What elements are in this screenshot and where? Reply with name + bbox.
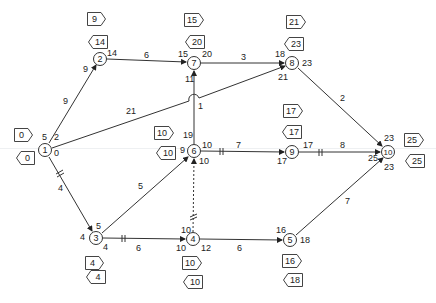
- node6-es-tag: 10: [154, 126, 174, 140]
- node3-label-in: 5: [96, 222, 101, 231]
- edge-weight-1-8: 21: [126, 107, 136, 116]
- node-1: 1: [38, 143, 52, 157]
- node10-label-bottom: 23: [384, 163, 394, 172]
- node-8: 8: [285, 56, 299, 70]
- edge-weight-9-10: 8: [340, 141, 345, 150]
- node5-es-tag: 16: [282, 254, 302, 268]
- node4-label-in: 10: [176, 244, 186, 253]
- node5-label-out: 18: [300, 236, 310, 245]
- edge-weight-3-4: 6: [136, 244, 141, 253]
- node8-lf-tag: 23: [284, 37, 304, 51]
- edge-4-5: [200, 239, 282, 240]
- edge-weight-4-5: 6: [237, 244, 242, 253]
- edge-weight-1-3: 4: [58, 184, 63, 193]
- edge-5-10: [296, 158, 383, 235]
- node8-es-tag: 21: [286, 15, 306, 29]
- node10-es-tag: 25: [404, 133, 424, 147]
- edge-3-6: [102, 157, 188, 233]
- node7-lf-tag: 20: [185, 35, 205, 49]
- node4-label-out: 12: [201, 244, 211, 253]
- node6-lf-tag: 10: [156, 146, 176, 160]
- node1-label-c: 0: [54, 149, 59, 158]
- edge-6-9: [201, 151, 284, 152]
- node7-es-tag: 15: [184, 13, 204, 27]
- node7-label-bottom: 11: [185, 75, 194, 84]
- edge-weight-6-9: 7: [236, 141, 241, 150]
- node-10: 10: [381, 145, 395, 159]
- node3-label-left: 4: [80, 233, 85, 242]
- node9-es-tag: 17: [283, 104, 303, 118]
- node9-label-in: 17: [277, 157, 287, 166]
- edge-weight-6-7: 1: [198, 102, 203, 111]
- node8-label-out: 23: [302, 59, 312, 68]
- node1-lf-tag: 0: [16, 151, 35, 165]
- node6-label-top: 19: [183, 131, 193, 140]
- node10-label-left: 25: [368, 154, 378, 163]
- node6-label-left: 9: [180, 146, 185, 155]
- edge-weight-7-8: 3: [241, 53, 246, 62]
- node9-lf-tag: 17: [282, 125, 302, 139]
- edge-weight-3-6: 5: [138, 182, 143, 191]
- node4-es-tag: 10: [182, 256, 202, 270]
- node2-es-tag: 9: [87, 12, 106, 26]
- edge-4-6-dummy: [193, 159, 194, 232]
- node8-label-in: 18: [275, 50, 285, 59]
- node10-lf-tag: 25: [405, 154, 425, 168]
- node8-label-in2: 21: [278, 73, 288, 82]
- node9-label-out: 17: [303, 141, 313, 150]
- node5-label-in: 16: [276, 226, 286, 235]
- node3-es-tag: 4: [85, 256, 104, 270]
- node4-lf-tag: 10: [183, 275, 203, 289]
- node-5: 5: [283, 233, 297, 247]
- edge-weight-8-10: 2: [340, 94, 345, 103]
- node3-label-out: 4: [103, 243, 108, 252]
- node1-label-b: 2: [54, 133, 59, 142]
- edge-weight-5-10: 7: [345, 197, 350, 206]
- node7-label-in: 15: [178, 50, 188, 59]
- edge-weight-2-7: 6: [144, 51, 149, 60]
- node1-es-tag: 0: [14, 128, 33, 142]
- node2-label-in: 9: [83, 65, 88, 74]
- node-3: 3: [89, 231, 103, 245]
- edge-8-10: [298, 68, 382, 146]
- node3-lf-tag: 4: [86, 270, 106, 284]
- network-diagram: 1 2 3 4 5 6 7 8 9 10 9 21 4 6 5 6 6 1 7 …: [0, 0, 436, 303]
- node1-label-a: 5: [42, 133, 47, 142]
- node2-label-out: 14: [107, 49, 117, 58]
- edge-3-4: [103, 238, 185, 239]
- node7-label-out: 20: [202, 50, 212, 59]
- edge-weight-1-2: 9: [63, 97, 68, 106]
- node10-label-top: 23: [384, 134, 394, 143]
- node-7: 7: [187, 56, 201, 70]
- edge-1-3: [49, 157, 92, 231]
- node5-lf-tag: 18: [283, 273, 303, 287]
- node6-label-bottom: 10: [199, 157, 209, 166]
- node2-lf-tag: 14: [88, 35, 108, 49]
- node-2: 2: [93, 52, 107, 66]
- edges-layer: [0, 0, 436, 303]
- node4-label-top: 10: [181, 226, 191, 235]
- node-9: 9: [285, 145, 299, 159]
- node6-label-right: 10: [202, 141, 212, 150]
